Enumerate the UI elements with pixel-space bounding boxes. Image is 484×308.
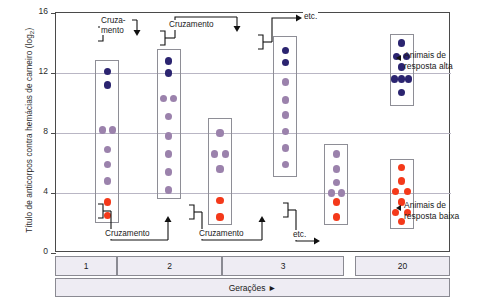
callout-low-line2: resposta baixa bbox=[404, 211, 459, 221]
cross-label-top-1: Cruza- mento bbox=[100, 16, 132, 35]
callout-high-response: Animais de resposta alta bbox=[404, 50, 453, 71]
generation-cell-3: 3 bbox=[222, 256, 344, 276]
callout-high-line1: Animais de bbox=[404, 50, 446, 60]
figure-root: Título de anticorpos contra hemácias de … bbox=[0, 0, 484, 308]
cross-label-top-1-line1: Cruza- bbox=[101, 16, 126, 25]
generation-cell-2: 2 bbox=[117, 256, 222, 276]
callout-arrow-low bbox=[396, 205, 401, 211]
callout-arrow-high bbox=[396, 55, 401, 61]
callout-low-response: Animais de resposta baixa bbox=[404, 200, 459, 221]
generations-axis-label: Gerações ► bbox=[55, 278, 450, 297]
callout-low-line1: Animais de bbox=[404, 200, 446, 210]
cross-label-top-1-line2: mento bbox=[101, 26, 124, 35]
generation-cell-1: 1 bbox=[55, 256, 117, 276]
generation-row: 12320 bbox=[55, 256, 450, 276]
etc-label-top: etc. bbox=[303, 12, 318, 22]
cross-label-bottom-2: Cruzamento bbox=[198, 229, 245, 239]
generation-cell-20: 20 bbox=[355, 256, 450, 276]
callout-high-line2: resposta alta bbox=[404, 61, 453, 71]
etc-label-bottom: etc. bbox=[292, 230, 307, 240]
cross-label-bottom-1: Cruzamento bbox=[104, 229, 151, 239]
cross-label-top-2: Cruzamento bbox=[168, 20, 215, 30]
